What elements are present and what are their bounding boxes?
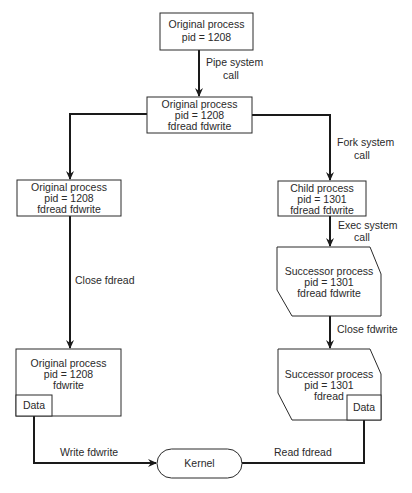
edge-label-fork-2: call — [354, 149, 370, 161]
edge-pipe: Pipe system call — [199, 50, 263, 96]
edge-label-exec-2: call — [354, 231, 370, 243]
edge-label-write: Write fdwrite — [60, 446, 118, 458]
edge-close-fdwrite: Close fdwrite — [330, 316, 398, 348]
node-successor-reader-line-3: fdread — [314, 390, 344, 402]
edge-label-close-fdwrite: Close fdwrite — [337, 323, 398, 335]
node-original-piped: Original process pid = 1208 fdread fdwri… — [147, 97, 252, 133]
node-original-initial: Original process pid = 1208 — [160, 13, 253, 50]
arrow-fork — [252, 115, 330, 180]
node-original-left-line-3: fdread fdwrite — [37, 203, 101, 215]
node-original-piped-line-3: fdread fdwrite — [168, 120, 232, 132]
edge-label-fork-1: Fork system — [337, 136, 394, 148]
edge-fork: Fork system call — [252, 115, 394, 180]
data-buffer-writer-label: Data — [23, 399, 45, 411]
node-kernel-label: Kernel — [184, 457, 214, 469]
node-original-writer: Original process pid = 1208 fdwrite Data — [16, 349, 121, 416]
node-original-initial-line-2: pid = 1208 — [182, 31, 231, 43]
edge-label-pipe-1: Pipe system — [206, 56, 263, 68]
edge-exec: Exec system call — [330, 216, 398, 246]
node-child-line-3: fdread fdwrite — [290, 204, 354, 216]
edge-label-read: Read fdread — [274, 446, 332, 458]
arrow-branch-left — [70, 114, 147, 179]
data-buffer-reader-label: Data — [353, 401, 375, 413]
edge-write: Write fdwrite — [34, 416, 156, 463]
node-child: Child process pid = 1301 fdread fdwrite — [278, 181, 366, 216]
edge-label-close-fdread: Close fdread — [75, 274, 135, 286]
node-original-left: Original process pid = 1208 fdread fdwri… — [17, 180, 121, 216]
edge-branch-left — [70, 114, 147, 179]
edge-label-pipe-2: call — [223, 69, 239, 81]
node-original-writer-line-3: fdwrite — [53, 379, 84, 391]
node-successor-reader: Successor process pid = 1301 fdread Data — [278, 349, 381, 420]
node-successor-exec: Successor process pid = 1301 fdread fdwr… — [277, 247, 381, 316]
edge-label-exec-1: Exec system — [338, 219, 398, 231]
edge-close-fdread: Close fdread — [70, 216, 135, 348]
edge-read: Read fdread — [242, 420, 364, 463]
process-pipe-diagram: Pipe system call Fork system call Close … — [0, 0, 412, 493]
node-successor-exec-line-3: fdread fdwrite — [297, 287, 361, 299]
node-kernel: Kernel — [157, 449, 242, 478]
node-original-initial-line-1: Original process — [169, 18, 245, 30]
